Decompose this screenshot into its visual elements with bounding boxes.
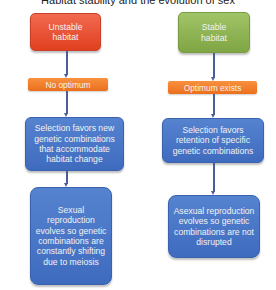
asexual-reproduction-node: Asexual reproduction evolves so genetic … [168,195,260,258]
optimum-exists-label: Optimum exists [184,83,242,93]
sexual-reproduction-node: Sexual reproduction evolves so genetic c… [30,187,112,285]
selection-retention-label: Selection favors retention of specific g… [166,125,260,156]
asexual-reproduction-label: Asexual reproduction evolves so genetic … [172,206,256,248]
unstable-habitat-label: Unstable habitat [46,22,86,43]
connector-line [213,53,215,78]
stable-habitat-node: Stable habitat [178,12,250,53]
selection-retention-node: Selection favors retention of specific g… [162,118,264,163]
stable-habitat-label: Stable habitat [196,22,232,43]
selection-new-combinations-node: Selection favors new genetic combination… [25,117,124,171]
sexual-reproduction-label: Sexual reproduction evolves so genetic c… [34,205,108,267]
connector-line [213,94,215,115]
unstable-habitat-node: Unstable habitat [30,13,101,51]
connector-line [66,91,68,114]
diagram-title: Habitat stability and the evolution of s… [0,0,276,6]
connector-line [213,163,215,192]
selection-new-combinations-label: Selection favors new genetic combination… [29,123,120,165]
connector-line [66,51,68,75]
optimum-exists-node: Optimum exists [168,81,257,94]
no-optimum-node: No optimum [28,78,108,91]
no-optimum-label: No optimum [45,80,90,90]
